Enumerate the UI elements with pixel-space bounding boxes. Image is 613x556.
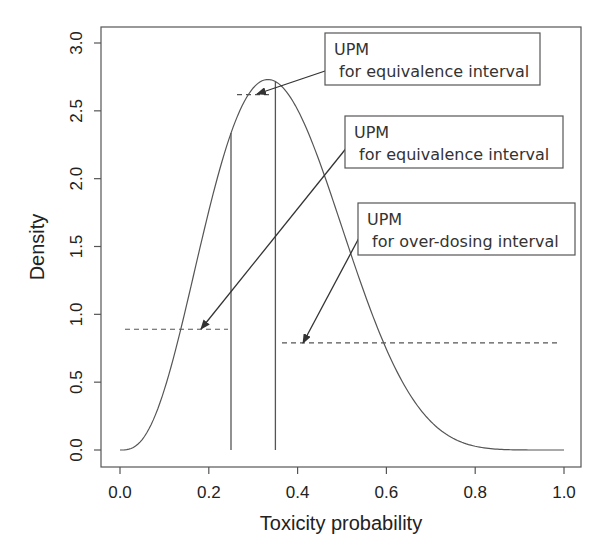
annotation-3-title: UPM bbox=[367, 210, 402, 229]
annotation-box-2: UPM for equivalence interval bbox=[345, 116, 563, 168]
annotation-2-title: UPM bbox=[354, 123, 389, 142]
y-axis: 0.00.51.01.52.02.53.0 bbox=[67, 31, 101, 462]
annotation-arrow-3 bbox=[303, 236, 360, 343]
x-tick-label: 1.0 bbox=[552, 483, 576, 502]
x-tick-label: 0.2 bbox=[197, 483, 221, 502]
density-chart: 0.00.51.01.52.02.53.0 0.00.20.40.60.81.0… bbox=[0, 0, 613, 556]
y-tick-label: 1.0 bbox=[67, 303, 86, 327]
x-axis-title: Toxicity probability bbox=[260, 512, 422, 534]
y-tick-label: 1.5 bbox=[67, 235, 86, 259]
y-tick-label: 0.0 bbox=[67, 438, 86, 462]
y-tick-label: 2.5 bbox=[67, 99, 86, 123]
y-tick-label: 3.0 bbox=[67, 31, 86, 55]
x-tick-label: 0.4 bbox=[286, 483, 310, 502]
y-axis-title: Density bbox=[26, 214, 48, 281]
annotation-2-subtitle: for equivalence interval bbox=[354, 145, 549, 164]
x-tick-label: 0.0 bbox=[108, 483, 132, 502]
annotation-arrow-1 bbox=[257, 70, 328, 94]
annotation-arrow-2 bbox=[201, 146, 348, 329]
annotation-box-1: UPM for equivalence interval bbox=[325, 33, 540, 85]
annotation-3-subtitle: for over-dosing interval bbox=[367, 232, 559, 251]
annotation-1-subtitle: for equivalence interval bbox=[334, 62, 529, 81]
y-tick-label: 0.5 bbox=[67, 370, 86, 394]
x-axis: 0.00.20.40.60.81.0 bbox=[108, 467, 576, 502]
y-tick-label: 2.0 bbox=[67, 167, 86, 191]
annotation-box-3: UPM for over-dosing interval bbox=[358, 203, 575, 255]
x-tick-label: 0.6 bbox=[375, 483, 399, 502]
x-tick-label: 0.8 bbox=[463, 483, 487, 502]
annotation-1-title: UPM bbox=[334, 40, 369, 59]
